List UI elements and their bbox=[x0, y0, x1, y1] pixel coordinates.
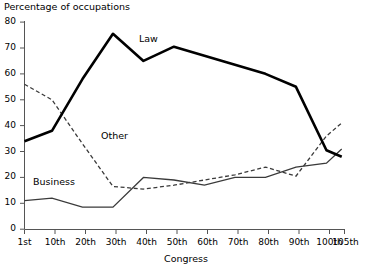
series-label-other: Other bbox=[101, 131, 128, 141]
series-label-law: Law bbox=[139, 34, 158, 44]
x-axis-ticks bbox=[25, 230, 345, 235]
x-tick-label-105th: 105th bbox=[326, 238, 365, 247]
x-tick-label-20th: 20th bbox=[69, 238, 102, 247]
y-tick-label-50: 50 bbox=[0, 95, 16, 104]
series-line-other bbox=[25, 84, 342, 189]
y-tick-label-70: 70 bbox=[0, 43, 16, 52]
series-line-law bbox=[25, 34, 342, 157]
y-tick-label-30: 30 bbox=[0, 147, 16, 156]
x-tick-label-10th: 10th bbox=[39, 238, 71, 247]
y-tick-label-20: 20 bbox=[0, 172, 16, 181]
x-tick-label-60th: 60th bbox=[191, 238, 224, 247]
x-tick-label-80th: 80th bbox=[252, 238, 285, 247]
y-tick-label-60: 60 bbox=[0, 69, 16, 78]
y-tick-label-10: 10 bbox=[0, 198, 16, 207]
x-tick-label-40th: 40th bbox=[130, 238, 163, 247]
y-axis-ticks bbox=[20, 22, 25, 229]
y-tick-label-40: 40 bbox=[0, 121, 16, 130]
y-tick-label-0: 0 bbox=[0, 224, 16, 233]
x-axis-title: Congress bbox=[164, 254, 208, 264]
series-label-business: Business bbox=[33, 177, 75, 187]
line-chart: Percentage of occupations Congress Law O… bbox=[0, 0, 369, 271]
chart-plot-area bbox=[0, 0, 369, 271]
x-tick-label-1st: 1st bbox=[11, 238, 38, 247]
y-axis-title: Percentage of occupations bbox=[4, 2, 130, 12]
x-tick-label-70th: 70th bbox=[222, 238, 254, 247]
y-tick-label-80: 80 bbox=[0, 17, 16, 26]
x-tick-label-30th: 30th bbox=[100, 238, 132, 247]
x-tick-label-50th: 50th bbox=[161, 238, 193, 247]
